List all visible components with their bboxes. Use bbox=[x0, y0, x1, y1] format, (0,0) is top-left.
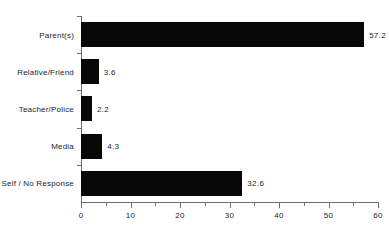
x-axis-minor-tick bbox=[155, 202, 156, 206]
bar-row: Relative/Friend3.6 bbox=[81, 53, 378, 90]
bar-value-label: 3.6 bbox=[99, 67, 116, 76]
y-axis-tick bbox=[77, 53, 82, 54]
x-axis-tick bbox=[329, 202, 330, 208]
bar-row: Parent(s)57.2 bbox=[81, 16, 378, 53]
x-axis-minor-tick bbox=[106, 202, 107, 206]
x-axis-tick bbox=[378, 202, 379, 208]
category-label: Media bbox=[51, 142, 74, 151]
x-axis-tick-label: 50 bbox=[324, 211, 334, 220]
y-axis-tick bbox=[77, 128, 82, 129]
x-axis-minor-tick bbox=[353, 202, 354, 206]
y-axis-tick bbox=[77, 90, 82, 91]
bar bbox=[81, 59, 99, 84]
x-axis-tick-label: 20 bbox=[175, 211, 185, 220]
bar bbox=[81, 96, 92, 121]
x-axis-minor-tick bbox=[254, 202, 255, 206]
x-axis-tick-label: 40 bbox=[274, 211, 284, 220]
bar-value-label: 2.2 bbox=[92, 104, 109, 113]
category-label: Relative/Friend bbox=[17, 67, 74, 76]
bar-value-label: 32.6 bbox=[242, 179, 264, 188]
bar-row: Media4.3 bbox=[81, 128, 378, 165]
x-axis-tick bbox=[180, 202, 181, 208]
bar-row: Teacher/Police2.2 bbox=[81, 90, 378, 127]
x-axis-tick-label: 0 bbox=[79, 211, 84, 220]
bar-chart-figure: Parent(s)57.2Relative/Friend3.6Teacher/P… bbox=[0, 0, 389, 239]
category-label: Parent(s) bbox=[39, 30, 74, 39]
bar bbox=[81, 171, 242, 196]
x-axis-tick-label: 30 bbox=[225, 211, 235, 220]
x-axis-tick bbox=[230, 202, 231, 208]
bar-value-label: 4.3 bbox=[102, 142, 119, 151]
bar bbox=[81, 22, 364, 47]
x-axis-minor-tick bbox=[304, 202, 305, 206]
x-axis-tick-label: 60 bbox=[373, 211, 383, 220]
x-axis-minor-tick bbox=[205, 202, 206, 206]
x-axis-tick-label: 10 bbox=[126, 211, 136, 220]
chart-title bbox=[0, 0, 389, 3]
y-axis-tick bbox=[77, 16, 82, 17]
x-axis-tick bbox=[279, 202, 280, 208]
bar-value-label: 57.2 bbox=[364, 30, 386, 39]
x-axis-tick bbox=[131, 202, 132, 208]
plot-area: Parent(s)57.2Relative/Friend3.6Teacher/P… bbox=[81, 16, 378, 202]
category-label: Self / No Response bbox=[1, 179, 74, 188]
x-axis-tick bbox=[81, 202, 82, 208]
bar bbox=[81, 134, 102, 159]
category-label: Teacher/Police bbox=[19, 104, 74, 113]
bar-row: Self / No Response32.6 bbox=[81, 165, 378, 202]
y-axis-tick bbox=[77, 165, 82, 166]
